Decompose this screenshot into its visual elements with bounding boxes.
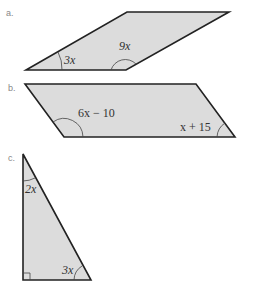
angle-label-9x: 9x (119, 39, 131, 53)
figure-c: c. 2x 3x (8, 153, 91, 280)
figure-b-label: b. (8, 83, 16, 93)
figure-a: a. 3x 9x (6, 8, 229, 70)
angle-label-3x-c: 3x (61, 263, 74, 277)
angle-label-6x-10: 6x − 10 (78, 106, 115, 120)
angle-label-x-15: x + 15 (180, 120, 211, 134)
angle-label-2x: 2x (25, 182, 37, 196)
figure-a-label: a. (6, 8, 14, 18)
angle-label-3x: 3x (63, 53, 76, 67)
diagram-canvas: a. 3x 9x b. 6x − 10 x + 15 c. 2x 3x (0, 0, 255, 287)
figure-b: b. 6x − 10 x + 15 (8, 83, 235, 137)
figure-c-label: c. (8, 153, 15, 163)
right-triangle-c (23, 154, 91, 280)
